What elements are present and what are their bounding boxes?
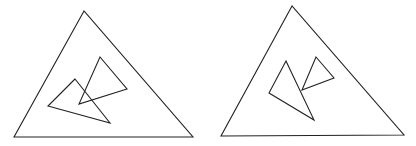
triangles-diagram [0, 0, 416, 146]
outer-triangle-left [14, 11, 193, 137]
inner-triangle-left-b [79, 57, 127, 104]
inner-triangle-right-b [302, 57, 334, 90]
figure-left [14, 11, 193, 137]
inner-triangle-right-a [269, 61, 314, 120]
figure-right [221, 6, 404, 136]
inner-triangle-left-a [48, 79, 110, 123]
